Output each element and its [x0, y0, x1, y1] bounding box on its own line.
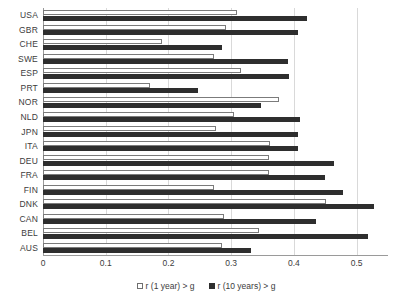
legend-swatch-icon	[209, 283, 215, 289]
bar-row	[43, 37, 388, 52]
legend-item-r10years[interactable]: r (10 years) > g	[209, 281, 276, 291]
bar-r1year-nld	[43, 112, 234, 117]
y-axis-label-gbr: GBR	[0, 25, 38, 35]
y-axis-labels: USAGBRCHESWEESPPRTNORNLDJPNITADEUFRAFIND…	[0, 8, 38, 255]
bar-row	[43, 66, 388, 81]
bar-row	[43, 8, 388, 23]
bar-r10years-nld	[43, 117, 300, 122]
x-axis-tick-0.5: 0.5	[351, 258, 363, 268]
bar-r1year-fra	[43, 170, 269, 175]
y-axis-label-esp: ESP	[0, 68, 38, 78]
bar-r1year-nor	[43, 97, 279, 102]
bar-row	[43, 153, 388, 168]
y-axis-label-ita: ITA	[0, 141, 38, 151]
bar-row	[43, 226, 388, 241]
bar-row	[43, 95, 388, 110]
y-axis-label-usa: USA	[0, 10, 38, 20]
bar-r10years-fin	[43, 190, 343, 195]
y-axis-label-fra: FRA	[0, 170, 38, 180]
x-axis-line	[43, 255, 388, 256]
bar-r1year-bel	[43, 228, 259, 233]
legend-item-r1year[interactable]: r (1 year) > g	[137, 281, 195, 291]
x-axis-tick-0.2: 0.2	[163, 258, 175, 268]
bar-row	[43, 52, 388, 67]
bar-row	[43, 240, 388, 255]
y-axis-label-nor: NOR	[0, 97, 38, 107]
chart-legend: r (1 year) > gr (10 years) > g	[0, 281, 412, 291]
bar-r1year-fin	[43, 185, 214, 190]
y-axis-label-dnk: DNK	[0, 199, 38, 209]
bar-r1year-usa	[43, 10, 237, 15]
bar-r10years-aus	[43, 248, 251, 253]
bar-r1year-prt	[43, 83, 150, 88]
bar-r10years-che	[43, 45, 222, 50]
bar-r10years-ita	[43, 146, 298, 151]
bar-r10years-gbr	[43, 30, 298, 35]
bar-r1year-deu	[43, 155, 269, 160]
bar-r1year-aus	[43, 243, 222, 248]
bar-r1year-ita	[43, 141, 270, 146]
y-axis-label-aus: AUS	[0, 243, 38, 253]
y-axis-label-swe: SWE	[0, 54, 38, 64]
bar-r10years-swe	[43, 59, 288, 64]
bar-r10years-usa	[43, 16, 307, 21]
x-axis-tick-0.1: 0.1	[100, 258, 112, 268]
bar-row	[43, 81, 388, 96]
x-axis-tick-0.3: 0.3	[225, 258, 237, 268]
bar-r10years-deu	[43, 161, 334, 166]
bar-r1year-esp	[43, 68, 241, 73]
legend-label: r (10 years) > g	[218, 281, 276, 291]
x-axis-labels: 00.10.20.30.40.5	[0, 258, 412, 272]
bar-r1year-gbr	[43, 25, 226, 30]
bar-r10years-dnk	[43, 204, 374, 209]
bar-row	[43, 211, 388, 226]
y-axis-label-can: CAN	[0, 214, 38, 224]
bar-r10years-esp	[43, 74, 289, 79]
bar-r1year-jpn	[43, 126, 216, 131]
x-axis-tick-0: 0	[41, 258, 46, 268]
legend-swatch-icon	[137, 283, 143, 289]
bar-row	[43, 110, 388, 125]
bar-chart: USAGBRCHESWEESPPRTNORNLDJPNITADEUFRAFIND…	[0, 0, 412, 305]
bar-row	[43, 124, 388, 139]
bar-r1year-can	[43, 214, 224, 219]
bar-r10years-nor	[43, 103, 261, 108]
y-axis-label-jpn: JPN	[0, 127, 38, 137]
legend-label: r (1 year) > g	[146, 281, 195, 291]
bar-row	[43, 168, 388, 183]
x-axis-tick-0.4: 0.4	[288, 258, 300, 268]
y-axis-label-fin: FIN	[0, 185, 38, 195]
bar-r10years-bel	[43, 234, 368, 239]
bar-r10years-jpn	[43, 132, 298, 137]
bar-r10years-can	[43, 219, 316, 224]
bar-row	[43, 23, 388, 38]
y-axis-label-bel: BEL	[0, 228, 38, 238]
y-axis-label-prt: PRT	[0, 83, 38, 93]
bar-row	[43, 182, 388, 197]
y-axis-label-nld: NLD	[0, 112, 38, 122]
plot-area	[43, 8, 388, 255]
bar-row	[43, 139, 388, 154]
bar-r1year-che	[43, 39, 162, 44]
bar-row	[43, 197, 388, 212]
bar-r10years-fra	[43, 175, 325, 180]
y-axis-label-deu: DEU	[0, 156, 38, 166]
y-axis-label-che: CHE	[0, 39, 38, 49]
bar-r1year-dnk	[43, 199, 326, 204]
bar-r1year-swe	[43, 54, 214, 59]
bar-rows	[43, 8, 388, 255]
bar-r10years-prt	[43, 88, 198, 93]
